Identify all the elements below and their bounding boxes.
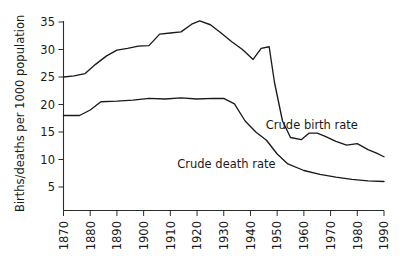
x-tick-label: 1970 (324, 221, 338, 250)
x-axis-ticks (64, 211, 385, 217)
x-tick-label: 1870 (57, 221, 71, 250)
x-tick-label: 1980 (351, 221, 365, 250)
x-axis-tick-labels: 1870188018901900191019201930194019501960… (57, 221, 392, 250)
y-axis-ticks (59, 22, 64, 187)
x-tick-label: 1930 (217, 221, 231, 250)
x-tick-label: 1990 (377, 221, 391, 250)
x-tick-label: 1910 (164, 221, 178, 250)
y-axis-title-group: Births/deaths per 1000 population (13, 15, 27, 212)
x-tick-label: 1950 (270, 221, 284, 250)
x-tick-label: 1880 (84, 221, 98, 250)
y-tick-label: 15 (40, 125, 55, 139)
series-line-crude-birth-rate (64, 21, 385, 157)
y-tick-label: 25 (40, 70, 55, 84)
y-tick-label: 5 (48, 180, 55, 194)
x-tick-label: 1940 (244, 221, 258, 250)
y-axis-tick-labels: 5101520253035 (40, 15, 55, 194)
chart-container: Births/deaths per 1000 population 510152… (0, 0, 400, 267)
series-annotation: Crude birth rate (266, 118, 358, 132)
x-tick-label: 1960 (297, 221, 311, 250)
axes-group (64, 21, 385, 211)
annotations-group: Crude birth rateCrude death rate (177, 118, 358, 171)
y-tick-label: 20 (40, 98, 55, 112)
y-tick-label: 30 (40, 43, 55, 57)
x-tick-label: 1920 (190, 221, 204, 250)
x-tick-label: 1900 (137, 221, 151, 250)
x-tick-label: 1890 (110, 221, 124, 250)
y-axis-title: Births/deaths per 1000 population (13, 15, 27, 212)
series-annotation: Crude death rate (177, 157, 275, 171)
y-tick-label: 10 (40, 153, 55, 167)
line-chart: Births/deaths per 1000 population 510152… (0, 0, 400, 267)
y-tick-label: 35 (40, 15, 55, 29)
